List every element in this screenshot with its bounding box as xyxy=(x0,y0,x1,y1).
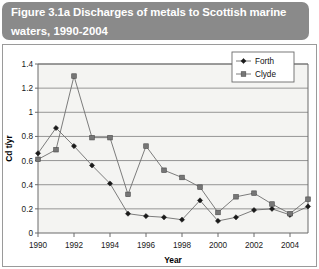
figure-title-line-1: Figure 3.1a Discharges of metals to Scot… xyxy=(11,5,300,21)
figure-title-banner: Figure 3.1a Discharges of metals to Scot… xyxy=(2,2,309,40)
figure-title-line-2: waters, 1990-2004 xyxy=(11,25,108,37)
chart-frame xyxy=(2,44,317,267)
figure-container: Figure 3.1a Discharges of metals to Scot… xyxy=(0,0,319,269)
